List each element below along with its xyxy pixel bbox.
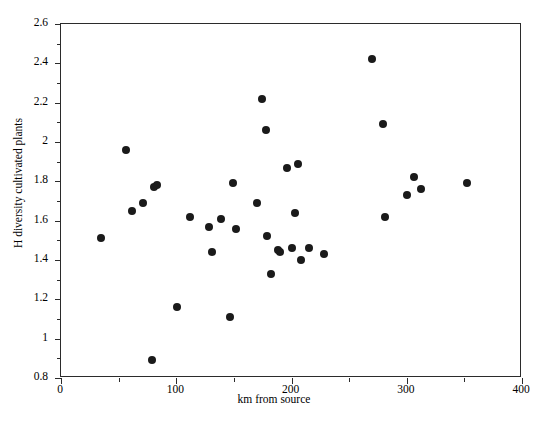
data-point: [205, 223, 213, 231]
data-point: [173, 303, 181, 311]
data-point: [379, 120, 387, 128]
y-axis-minor-tick: [57, 162, 61, 163]
data-point: [186, 213, 194, 221]
data-point: [97, 234, 105, 242]
y-axis-tick: [55, 63, 61, 64]
plot-frame: [60, 23, 521, 377]
data-point: [258, 95, 266, 103]
y-axis-tick: [55, 299, 61, 300]
data-point: [276, 248, 284, 256]
data-point: [148, 356, 156, 364]
scatter-chart-figure: 0.811.21.41.61.822.22.42.60100200300400 …: [0, 0, 548, 422]
y-axis-minor-tick: [57, 358, 61, 359]
data-point: [283, 164, 291, 172]
x-axis-minor-tick: [234, 378, 235, 382]
data-point: [232, 225, 240, 233]
y-axis-tick: [55, 339, 61, 340]
y-axis-tick: [55, 260, 61, 261]
data-point: [463, 179, 471, 187]
data-point: [410, 173, 418, 181]
y-axis-tick-label: 2.6: [8, 17, 48, 29]
data-point: [253, 199, 261, 207]
data-point: [153, 181, 161, 189]
data-point: [403, 191, 411, 199]
data-point: [368, 55, 376, 63]
x-axis-title: km from source: [0, 393, 548, 405]
x-axis-minor-tick: [119, 378, 120, 382]
data-point: [381, 213, 389, 221]
y-axis-title: H diversity cultivated plants: [12, 33, 24, 333]
y-axis-minor-tick: [57, 83, 61, 84]
data-point: [229, 179, 237, 187]
y-axis-minor-tick: [57, 201, 61, 202]
y-axis-minor-tick: [57, 122, 61, 123]
data-point: [217, 215, 225, 223]
data-point: [139, 199, 147, 207]
y-axis-tick: [55, 103, 61, 104]
y-axis-minor-tick: [57, 44, 61, 45]
data-point: [208, 248, 216, 256]
data-point: [417, 185, 425, 193]
data-point: [267, 270, 275, 278]
data-point: [128, 207, 136, 215]
data-point: [294, 160, 302, 168]
data-point: [262, 126, 270, 134]
data-point: [226, 313, 234, 321]
y-axis-tick-label: 1: [8, 332, 48, 344]
data-point: [122, 146, 130, 154]
data-point: [263, 232, 271, 240]
data-point: [288, 244, 296, 252]
y-axis-tick: [55, 221, 61, 222]
y-axis-minor-tick: [57, 280, 61, 281]
y-axis-tick: [55, 24, 61, 25]
data-points-layer: [61, 24, 520, 376]
y-axis-tick: [55, 142, 61, 143]
y-axis-tick-label: 0.8: [8, 371, 48, 383]
data-point: [291, 209, 299, 217]
data-point: [305, 244, 313, 252]
data-point: [320, 250, 328, 258]
y-axis-minor-tick: [57, 240, 61, 241]
x-axis-minor-tick: [349, 378, 350, 382]
y-axis-minor-tick: [57, 319, 61, 320]
x-axis-minor-tick: [464, 378, 465, 382]
data-point: [297, 256, 305, 264]
y-axis-tick: [55, 181, 61, 182]
